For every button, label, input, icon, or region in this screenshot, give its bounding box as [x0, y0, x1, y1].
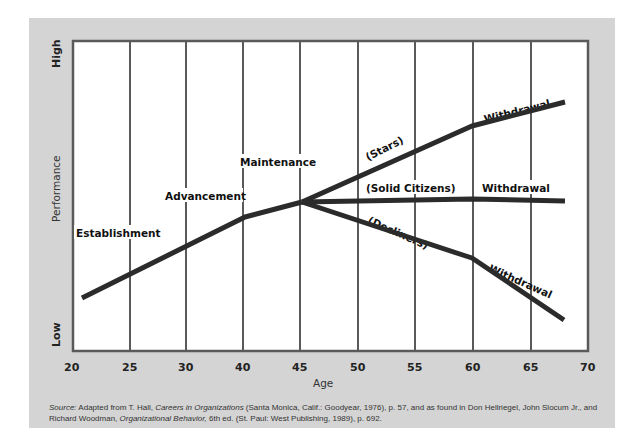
source-prefix: Source:: [49, 403, 77, 412]
x-tick: 50: [350, 361, 366, 374]
x-axis-title: Age: [313, 377, 333, 389]
x-tick: 65: [523, 361, 538, 374]
x-tick: 70: [580, 361, 596, 374]
x-tick: 25: [122, 361, 137, 374]
career-stages-chart: Establishment Advancement Maintenance (S…: [0, 0, 643, 434]
x-tick: 40: [235, 361, 251, 374]
plot-area: [73, 41, 588, 351]
x-tick: 45: [292, 361, 307, 374]
x-tick: 30: [178, 361, 194, 374]
x-tick: 20: [64, 361, 80, 374]
line-solid-citizens: [302, 199, 565, 202]
x-tick: 55: [407, 361, 422, 374]
label-establishment: Establishment: [76, 227, 161, 239]
y-label-low: Low: [50, 322, 63, 347]
source-note: Source: Adapted from T. Hall, Careers in…: [49, 402, 609, 424]
x-tick-labels: 20 25 30 40 45 50 55 60 65 70: [64, 361, 596, 374]
y-label-high: High: [50, 39, 63, 68]
label-advancement: Advancement: [165, 190, 246, 202]
label-solid-citizens: (Solid Citizens): [366, 182, 456, 194]
x-tick: 60: [465, 361, 481, 374]
y-axis-title: Performance: [50, 155, 62, 222]
label-maintenance: Maintenance: [240, 156, 316, 168]
label-withdrawal-solid: Withdrawal: [482, 182, 550, 194]
